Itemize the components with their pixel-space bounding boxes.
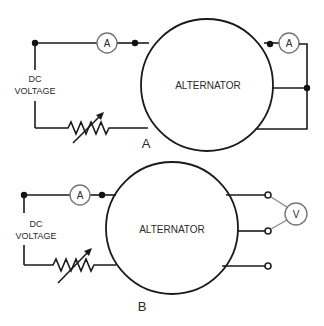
terminal-b-1 (265, 192, 271, 198)
rheostat-b-icon (24, 259, 116, 271)
output-a-short-wire (256, 44, 307, 129)
voltmeter-b-label: V (293, 209, 300, 220)
ammeter-a-field-label: A (104, 38, 111, 49)
diagram-a: ALTERNATOR A DC VOLTAGE A A (14, 19, 310, 151)
terminal-b-3 (265, 263, 271, 269)
ammeter-b-field-icon: A (70, 185, 90, 205)
junction-a-field-dot (132, 40, 138, 46)
terminal-b-2 (265, 228, 271, 234)
voltmeter-b-icon: V (285, 203, 307, 225)
diagram-a-label: A (142, 136, 151, 151)
voltage-label-a: VOLTAGE (14, 86, 55, 96)
junction-b-field-dot (99, 192, 105, 198)
diagram-b: ALTERNATOR A DC VOLTAGE V (15, 162, 307, 314)
voltage-label-b: VOLTAGE (15, 231, 56, 241)
diagram-b-label: B (138, 299, 147, 314)
dc-label-a: DC (29, 74, 42, 84)
dc-label-b: DC (30, 219, 43, 229)
alternator-a-label: ALTERNATOR (175, 80, 241, 91)
voltmeter-probe-2 (271, 220, 287, 229)
voltmeter-probe-1 (271, 197, 287, 207)
ammeter-a-output-icon: A (279, 33, 299, 53)
junction-a-output-dot (267, 41, 273, 47)
ammeter-a-output-label: A (286, 38, 293, 49)
rheostat-a-arrow (73, 115, 101, 143)
alternator-b-label: ALTERNATOR (139, 224, 205, 235)
junction-a-mid-dot (304, 85, 310, 91)
alternator-test-circuits: ALTERNATOR A DC VOLTAGE A A (0, 0, 324, 326)
ammeter-a-field-icon: A (97, 33, 117, 53)
ammeter-b-field-label: A (77, 190, 84, 201)
